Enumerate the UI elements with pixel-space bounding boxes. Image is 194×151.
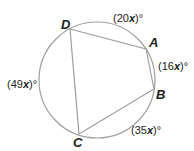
vertex-label-b: B — [156, 87, 165, 102]
arc-label-cd: (49x)° — [7, 78, 37, 90]
inscribed-quadrilateral-diagram: A B C D (20x)° (16x)° (35x)° (49x)° — [0, 0, 194, 151]
arc-label-ab: (16x)° — [158, 60, 188, 72]
vertex-label-d: D — [61, 17, 71, 32]
vertex-label-a: A — [148, 35, 158, 50]
arc-label-bc: (35x)° — [131, 124, 161, 136]
quadrilateral-ABCD — [70, 29, 154, 134]
vertex-label-c: C — [73, 135, 83, 150]
circle — [39, 22, 155, 138]
arc-label-da: (20x)° — [113, 12, 143, 24]
